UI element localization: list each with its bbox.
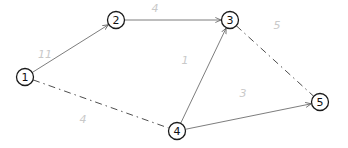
edge-weight-4-3: 1: [182, 54, 189, 67]
edge-weight-1-4: 4: [80, 113, 87, 126]
graph-diagram: 1141345 12345: [0, 0, 348, 148]
node-2: 2: [108, 12, 125, 29]
node-label: 1: [22, 71, 29, 84]
node-4: 4: [169, 123, 186, 140]
edge-4-3: [181, 28, 226, 123]
nodes-layer: 12345: [17, 12, 329, 140]
edge-4-5: [185, 104, 311, 130]
edge-weight-2-3: 4: [152, 2, 159, 15]
node-1: 1: [17, 69, 34, 86]
node-5: 5: [312, 94, 329, 111]
node-label: 5: [317, 96, 324, 109]
edge-weight-1-2: 11: [38, 48, 52, 61]
node-label: 2: [113, 14, 120, 27]
edge-3-5: [236, 26, 313, 96]
edges-layer: [32, 20, 313, 129]
node-label: 3: [227, 14, 234, 27]
edge-weight-3-5: 5: [274, 19, 281, 32]
edge-weight-4-5: 3: [240, 87, 247, 100]
edge-1-4: [33, 80, 169, 128]
node-label: 4: [174, 125, 181, 138]
node-3: 3: [222, 12, 239, 29]
